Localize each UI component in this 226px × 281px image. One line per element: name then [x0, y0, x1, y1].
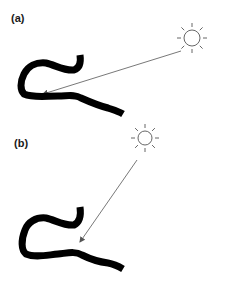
- worm-shape: [22, 207, 123, 269]
- light-ray-arrow: [80, 160, 137, 242]
- panel-a: [21, 23, 207, 114]
- sun-icon: [131, 124, 159, 152]
- light-ray-arrow: [43, 51, 181, 94]
- sun-icon: [177, 23, 207, 53]
- worm-shape: [21, 55, 123, 114]
- diagram-canvas: [0, 0, 226, 281]
- panel-b: [22, 124, 159, 269]
